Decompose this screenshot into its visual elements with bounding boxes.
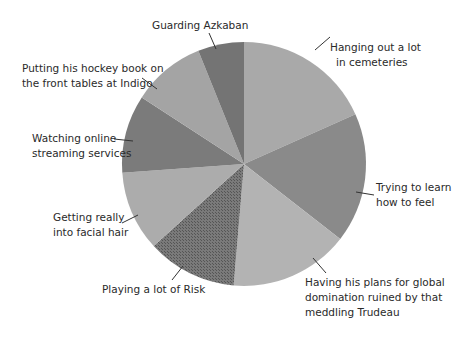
label-facial: Getting really into facial hair <box>53 210 128 240</box>
leader-risk <box>172 266 183 280</box>
label-hanging: Hanging out a lot in cemeteries <box>330 40 421 70</box>
leader-having <box>313 258 326 273</box>
label-putting: Putting his hockey book on the front tab… <box>22 61 164 91</box>
pie-chart: Hanging out a lot in cemeteries Trying t… <box>0 0 468 339</box>
label-trying: Trying to learn how to feel <box>376 180 451 210</box>
label-watching: Watching online streaming services <box>32 131 131 161</box>
label-having: Having his plans for global domination r… <box>305 275 445 320</box>
leader-hanging <box>315 37 330 50</box>
label-guarding: Guarding Azkaban <box>152 18 248 33</box>
label-risk: Playing a lot of Risk <box>102 282 205 297</box>
